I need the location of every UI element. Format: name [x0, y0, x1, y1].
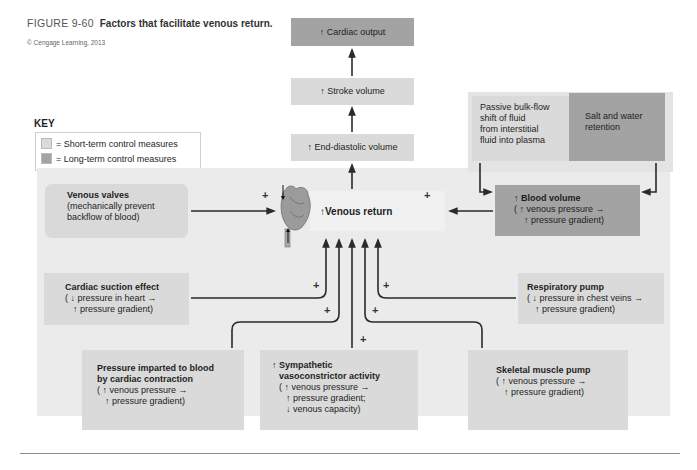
- bottom-rule: [20, 453, 680, 454]
- plus-sign-blood-volume: +: [424, 189, 430, 201]
- plus-sign-valves: +: [262, 189, 268, 201]
- plus-sign-sympathetic: +: [360, 333, 366, 345]
- plus-sign-skeletal: +: [372, 304, 378, 316]
- plus-sign-respiratory: +: [383, 279, 389, 291]
- plus-sign-contraction: +: [324, 304, 330, 316]
- plus-sign-suction: +: [313, 279, 319, 291]
- connector-arrows: [0, 0, 697, 470]
